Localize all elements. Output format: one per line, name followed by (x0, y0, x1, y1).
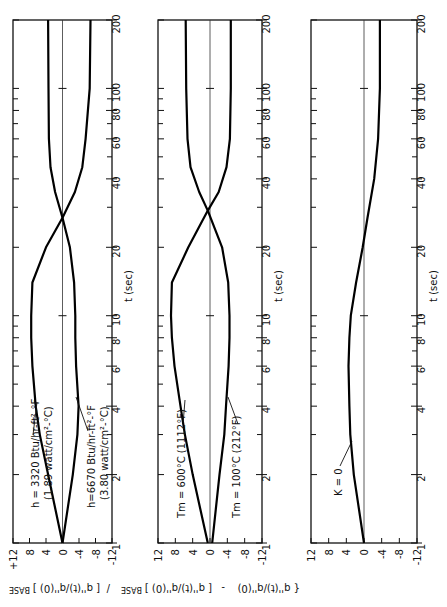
y-tick-label: -4 (377, 549, 388, 559)
panel-1-heat-transfer-coefficient: 124681020406080100200+12840-4-8-12t (sec… (8, 14, 134, 570)
x-tick-label: 200 (416, 14, 427, 33)
svg-text:(3.80 watt/cm²-°C): (3.80 watt/cm²-°C) (99, 406, 110, 500)
annotation-h3320: h = 3320 Btu/hr-ft²-°F (1.89 watt/cm²-°C… (30, 399, 54, 508)
x-tick-label: 6 (111, 367, 122, 373)
x-tick-label: 2 (111, 475, 122, 481)
svg-text:BASE: BASE (9, 585, 30, 594)
svg-text:BASE: BASE (121, 585, 142, 594)
x-axis-title: t (sec) (428, 270, 439, 302)
y-tick-label: -8 (91, 549, 102, 559)
y-tick-label: 0 (58, 549, 69, 555)
x-tick-label: 8 (416, 339, 427, 345)
y-tick-label: -8 (240, 549, 251, 559)
rotated-figure: 124681020406080100200+12840-4-8-12t (sec… (0, 0, 447, 607)
y-tick-label: -12 (412, 549, 423, 565)
y-tick-label: -12 (257, 549, 268, 565)
annotation-k0: K = 0 (333, 441, 352, 496)
x-tick-label: 2 (261, 475, 272, 481)
x-tick-label: 200 (261, 14, 272, 33)
data-curve (186, 20, 230, 543)
y-tick-label: 0 (205, 549, 216, 555)
y-tick-label: 12 (306, 549, 317, 562)
x-tick-label: 100 (261, 83, 272, 102)
y-tick-label: 0 (359, 549, 370, 555)
panel-3-k-zero: 12468102040608010020012840-4-8-12t (sec) (306, 14, 439, 565)
y-tick-label: 8 (170, 549, 181, 555)
panel-2-melt-temperature: 12468102040608010020012840-4-8-12t (sec) (153, 14, 284, 565)
y-tick-label: -4 (74, 549, 85, 559)
annotation-h6670: h=6670 Btu/hr-ft²-°F (3.80 watt/cm²-°C) (76, 397, 110, 508)
svg-text:Tm = 600°C (1112°F): Tm = 600°C (1112°F) (176, 409, 187, 519)
x-tick-label: 4 (261, 407, 272, 413)
leader-line-k0 (340, 441, 352, 466)
x-axis-title: t (sec) (273, 270, 284, 302)
y-tick-label: 4 (41, 549, 52, 555)
x-tick-label: 100 (111, 83, 122, 102)
y-tick-label: 12 (153, 549, 164, 562)
svg-text:Tm = 100°C (212°F): Tm = 100°C (212°F) (231, 415, 242, 519)
y-tick-label: -4 (222, 549, 233, 559)
y-tick-label: 4 (341, 549, 352, 555)
svg-text:K = 0: K = 0 (333, 468, 344, 496)
svg-text:h=6670 Btu/hr-ft²-°F: h=6670 Btu/hr-ft²-°F (86, 405, 97, 508)
svg-text:-: - (221, 583, 225, 594)
svg-text:[ q''(t)/q''(0) ]: [ q''(t)/q''(0) ] (33, 583, 100, 594)
y-tick-label: -8 (394, 549, 405, 559)
x-tick-label: 8 (261, 339, 272, 345)
x-tick-label: 6 (261, 367, 272, 373)
x-tick-label: 2 (416, 475, 427, 481)
x-tick-label: 4 (111, 407, 122, 413)
x-tick-label: 8 (111, 339, 122, 345)
svg-text:[ q''(t)/q''(0) ]: [ q''(t)/q''(0) ] (145, 583, 212, 594)
svg-text:/: / (106, 583, 110, 594)
y-axis-label: { q''(t)/q''(0) - [ q''(t)/q''(0) ] BASE… (9, 583, 300, 594)
y-tick-label: 8 (25, 549, 36, 555)
x-tick-label: 4 (416, 407, 427, 413)
y-tick-label: 4 (188, 549, 199, 555)
x-tick-label: 100 (416, 83, 427, 102)
x-tick-label: 6 (416, 367, 427, 373)
annotation-tm600: Tm = 600°C (1112°F) (176, 400, 187, 519)
svg-text:(1.89 watt/cm²-°C): (1.89 watt/cm²-°C) (43, 406, 54, 500)
x-tick-label: 200 (111, 14, 122, 33)
svg-text:{ q''(t)/q''(0): { q''(t)/q''(0) (237, 583, 300, 594)
x-axis-title: t (sec) (123, 270, 134, 302)
y-tick-label: -12 (107, 549, 118, 565)
annotation-tm100: Tm = 100°C (212°F) (228, 397, 242, 519)
y-tick-label: 8 (324, 549, 335, 555)
y-tick-label: +12 (8, 549, 19, 570)
